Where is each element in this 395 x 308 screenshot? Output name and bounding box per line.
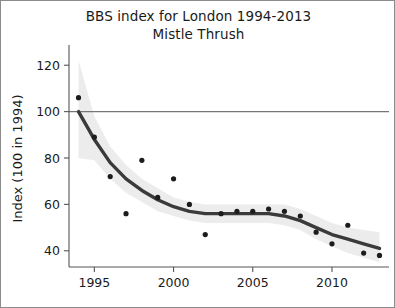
data-point — [345, 223, 350, 228]
data-point — [171, 176, 176, 181]
data-point — [76, 95, 81, 100]
confidence-band-area — [79, 61, 380, 263]
data-point — [92, 135, 97, 140]
data-point — [139, 158, 144, 163]
y-tick-label: 120 — [36, 58, 60, 73]
chart-screenshot: BBS index for London 1994-2013 Mistle Th… — [0, 0, 395, 308]
x-tick-label: 1995 — [78, 275, 110, 290]
data-point — [187, 202, 192, 207]
x-tick-label: 2005 — [237, 275, 269, 290]
data-point — [123, 211, 128, 216]
data-point — [218, 211, 223, 216]
x-tick-label: 2010 — [316, 275, 348, 290]
data-point — [282, 209, 287, 214]
data-point — [108, 174, 113, 179]
data-point — [250, 209, 255, 214]
x-tick-label: 2000 — [158, 275, 190, 290]
data-point — [266, 206, 271, 211]
data-point — [203, 232, 208, 237]
data-point — [377, 253, 382, 258]
data-point — [361, 250, 366, 255]
data-point — [298, 213, 303, 218]
data-point — [329, 241, 334, 246]
y-tick-label: 80 — [44, 151, 60, 166]
data-point — [234, 209, 239, 214]
plot-area: 4060801001201995200020052010 — [1, 1, 395, 308]
data-point — [155, 195, 160, 200]
y-tick-label: 100 — [36, 104, 60, 119]
confidence-band — [79, 61, 380, 263]
y-tick-label: 40 — [44, 243, 60, 258]
y-tick-label: 60 — [44, 197, 60, 212]
data-point — [314, 230, 319, 235]
